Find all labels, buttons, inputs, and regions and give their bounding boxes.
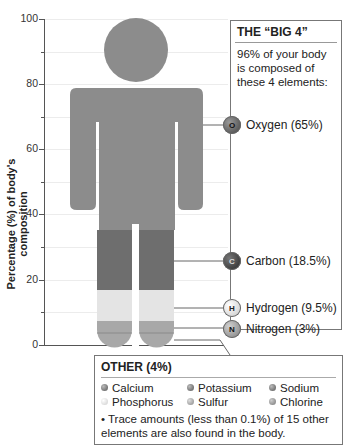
big4-title: THE “BIG 4” <box>235 21 337 43</box>
oxygen-label: Oxygen (65%) <box>246 118 323 132</box>
big4-description: 96% of your body is composed of these 4 … <box>231 43 341 93</box>
right-leg-nitrogen <box>139 321 174 347</box>
carbon-ball-icon: C <box>223 252 241 270</box>
potassium-dot-icon <box>187 384 194 391</box>
trace-note: • Trace amounts (less than 0.1%) of 15 o… <box>95 409 342 440</box>
other-item-sodium: Sodium <box>269 381 339 395</box>
hydrogen-label: Hydrogen (9.5%) <box>246 301 337 315</box>
other-item-chlorine: Chlorine <box>269 395 339 409</box>
left-leg-carbon <box>97 230 132 290</box>
other-item-sulfur: Sulfur <box>187 395 269 409</box>
chlorine-dot-icon <box>269 398 276 405</box>
carbon-label: Carbon (18.5%) <box>246 254 331 268</box>
figure-head <box>104 18 168 82</box>
sulfur-dot-icon <box>187 398 194 405</box>
other-title: OTHER (4%) <box>101 360 336 378</box>
hydrogen-ball-icon: H <box>223 299 241 317</box>
left-leg-nitrogen <box>97 321 132 348</box>
left-leg-hydrogen <box>97 290 132 321</box>
right-leg-carbon <box>139 230 174 290</box>
other-item-calcium: Calcium <box>101 381 187 395</box>
other-elements-list: Calcium Potassium Sodium Phosphorus Sulf… <box>95 378 342 409</box>
other-item-potassium: Potassium <box>187 381 269 395</box>
nitrogen-label: Nitrogen (3%) <box>246 322 320 336</box>
big4-panel: THE “BIG 4” 96% of your body is composed… <box>230 20 342 330</box>
calcium-dot-icon <box>101 384 108 391</box>
phosphorus-dot-icon <box>101 398 108 405</box>
figure-torso-oxygen <box>70 88 203 230</box>
element-carbon: C Carbon (18.5%) <box>223 252 331 270</box>
element-oxygen: O Oxygen (65%) <box>223 116 323 134</box>
right-leg-hydrogen <box>139 290 174 321</box>
oxygen-ball-icon: O <box>223 116 241 134</box>
element-hydrogen: H Hydrogen (9.5%) <box>223 299 337 317</box>
nitrogen-ball-icon: N <box>223 320 241 338</box>
other-item-phosphorus: Phosphorus <box>101 395 187 409</box>
other-panel: OTHER (4%) Calcium Potassium Sodium Phos… <box>94 355 343 445</box>
sodium-dot-icon <box>269 384 276 391</box>
element-nitrogen: N Nitrogen (3%) <box>223 320 320 338</box>
